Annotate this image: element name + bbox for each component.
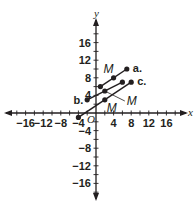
data-point xyxy=(102,88,107,93)
x-axis-right-arrow-icon xyxy=(180,110,188,116)
midpoint-label: M xyxy=(127,94,137,108)
data-point xyxy=(76,115,81,120)
y-axis-label: y xyxy=(93,7,99,19)
segment-label: b. xyxy=(73,94,83,106)
data-point xyxy=(98,84,103,89)
segment-a: a.M xyxy=(98,62,142,89)
x-tick-label: −8 xyxy=(55,117,68,129)
y-tick-label: −8 xyxy=(78,142,91,154)
data-point xyxy=(111,75,116,80)
x-tick-label: 12 xyxy=(143,117,155,129)
midpoint-label: M xyxy=(104,62,114,76)
x-tick-label: −16 xyxy=(16,117,35,129)
data-point xyxy=(124,66,129,71)
coordinate-plane: xy−16−12−8−4481216161284−4−8−12−16O a.Mb… xyxy=(0,0,195,206)
x-axis-left-arrow-icon xyxy=(4,110,12,116)
segment-label: a. xyxy=(133,62,142,74)
y-tick-label: −16 xyxy=(72,177,91,189)
x-tick-label: −12 xyxy=(34,117,53,129)
segment-label: c. xyxy=(137,75,146,87)
y-axis-up-arrow-icon xyxy=(93,18,99,26)
x-tick-label: 8 xyxy=(128,117,134,129)
y-tick-label: −12 xyxy=(72,160,91,172)
y-tick-label: 12 xyxy=(79,54,91,66)
y-tick-label: 8 xyxy=(85,72,91,84)
y-tick-label: 16 xyxy=(79,37,91,49)
data-point xyxy=(129,80,134,85)
x-axis-label: x xyxy=(187,106,193,118)
origin-label: O xyxy=(87,113,95,125)
midpoint-label: M xyxy=(107,101,117,115)
data-point xyxy=(85,97,90,102)
y-tick-label: −4 xyxy=(78,125,91,137)
axes xyxy=(4,18,188,201)
y-axis-down-arrow-icon xyxy=(93,193,99,201)
data-point xyxy=(120,80,125,85)
x-tick-label: 4 xyxy=(111,117,118,129)
x-tick-label: 16 xyxy=(160,117,172,129)
